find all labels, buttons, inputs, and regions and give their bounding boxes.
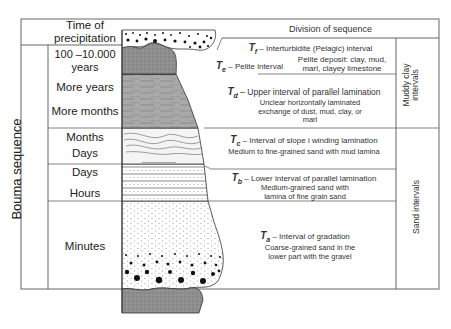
interval-td-name: – Upper interval of parallel lamination	[240, 87, 380, 97]
division-header: Division of sequence	[222, 24, 439, 34]
interval-tb-name: – Lower interval of parallel lamination	[244, 174, 376, 183]
bouma-sequence-label: Bouma sequence	[9, 111, 27, 227]
time-row-minutes: Minutes	[48, 240, 122, 253]
interval-ta-name: – Interval of gradation	[272, 232, 349, 241]
time-row-days-1: Days	[48, 147, 122, 160]
interval-tf-symbol: Tf	[249, 42, 257, 53]
time-row-more-months: More months	[48, 105, 122, 118]
interval-ta: Ta – Interval of gradation	[225, 230, 385, 244]
interval-tb-symbol: Tb	[232, 172, 242, 183]
interval-tc-name: – Interval of slope i winding lamination	[243, 136, 378, 145]
time-header: Time of precipitation	[48, 19, 122, 45]
time-row-hours: Hours	[48, 187, 122, 200]
interval-ta-symbol: Ta	[260, 230, 270, 241]
interval-tc: Tc – Interval of slope i winding laminat…	[212, 134, 396, 148]
group-sand-intervals: Sand intervals	[411, 162, 423, 252]
interval-tf: Tf – Interturbidite (Pelagic) interval	[225, 42, 396, 56]
interval-td-description: Unclear horizontally laminated exchange …	[250, 99, 370, 125]
interval-te: Te – Pelite interval	[216, 60, 286, 74]
time-row-months: Months	[48, 131, 122, 144]
interval-ta-description: Coarse-grained sand in the lower part wi…	[262, 244, 358, 261]
interval-te-name: – Pelite interval	[228, 62, 283, 71]
interval-tb-description: Medium-grained sand with lamina of fine …	[255, 184, 355, 201]
interval-tf-name: – Interturbidite (Pelagic) interval	[259, 44, 372, 53]
group-muddy-clay-intervals: Muddy clay intervals	[402, 49, 432, 121]
interval-tc-description: Medium to fine-grained sand with mud lam…	[212, 148, 396, 157]
interval-td-symbol: Td	[227, 86, 237, 97]
interval-te-symbol: Te	[216, 60, 226, 71]
time-row-days-2: Days	[48, 166, 122, 179]
time-row-100-10000-years: 100 –10.000 years	[50, 48, 120, 73]
interval-te-description: Pelite deposit: clay, mud, marl, clayey …	[288, 55, 396, 73]
time-row-more-years: More years	[48, 81, 122, 94]
interval-tc-symbol: Tc	[230, 134, 240, 145]
